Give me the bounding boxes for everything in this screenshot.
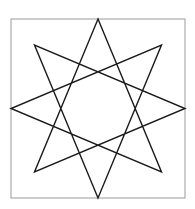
star-polygon-figure <box>0 0 195 209</box>
